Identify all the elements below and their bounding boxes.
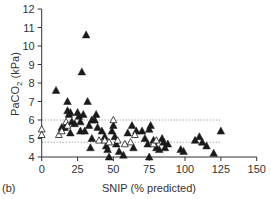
filled-triangle-marker	[210, 149, 218, 156]
scatter-chart: 4567891011120255075100125150 PaCO2 (kPa)…	[0, 0, 271, 199]
filled-triangle-marker	[147, 122, 155, 129]
y-tick-label: 9	[29, 59, 35, 71]
axes: 4567891011120255075100125150	[22, 3, 265, 175]
filled-triangle-marker	[128, 122, 136, 129]
filled-triangle-marker	[78, 68, 86, 75]
x-tick-label: 150	[248, 163, 266, 175]
filled-triangle-marker	[92, 110, 100, 117]
filled-triangle-marker	[88, 135, 96, 142]
y-tick-label: 12	[22, 3, 34, 15]
open-triangle-marker	[121, 140, 128, 146]
filled-triangle-marker	[52, 86, 60, 93]
y-tick-label: 5	[29, 133, 35, 145]
y-axis-label: PaCO2 (kPa)	[9, 52, 24, 116]
chart-canvas: 4567891011120255075100125150 PaCO2 (kPa)…	[0, 0, 271, 199]
filled-triangle-marker	[84, 98, 92, 105]
y-tick-label: 7	[29, 96, 35, 108]
y-tick-label: 8	[29, 77, 35, 89]
x-tick-label: 50	[107, 163, 119, 175]
x-axis-label: SNIP (% predicted)	[102, 182, 196, 194]
open-triangle-marker	[127, 139, 134, 145]
x-tick-label: 25	[71, 163, 83, 175]
filled-triangle-marker	[138, 127, 146, 134]
filled-triangle-marker	[64, 98, 72, 105]
filled-triangle-marker	[124, 129, 132, 136]
y-tick-label: 10	[22, 40, 34, 52]
x-tick-label: 75	[143, 163, 155, 175]
filled-triangle-marker	[94, 123, 102, 130]
x-tick-label: 0	[39, 163, 45, 175]
y-tick-label: 11	[23, 22, 34, 34]
x-tick-label: 125	[212, 163, 230, 175]
filled-triangle-marker	[115, 147, 123, 154]
data-points	[38, 31, 224, 160]
filled-triangle-marker	[82, 31, 90, 38]
filled-triangle-marker	[217, 127, 225, 134]
y-tick-label: 6	[29, 114, 35, 126]
x-tick-label: 100	[176, 163, 194, 175]
filled-triangle-marker	[87, 144, 95, 151]
y-tick-label: 4	[29, 151, 35, 163]
panel-label: (b)	[2, 182, 15, 194]
